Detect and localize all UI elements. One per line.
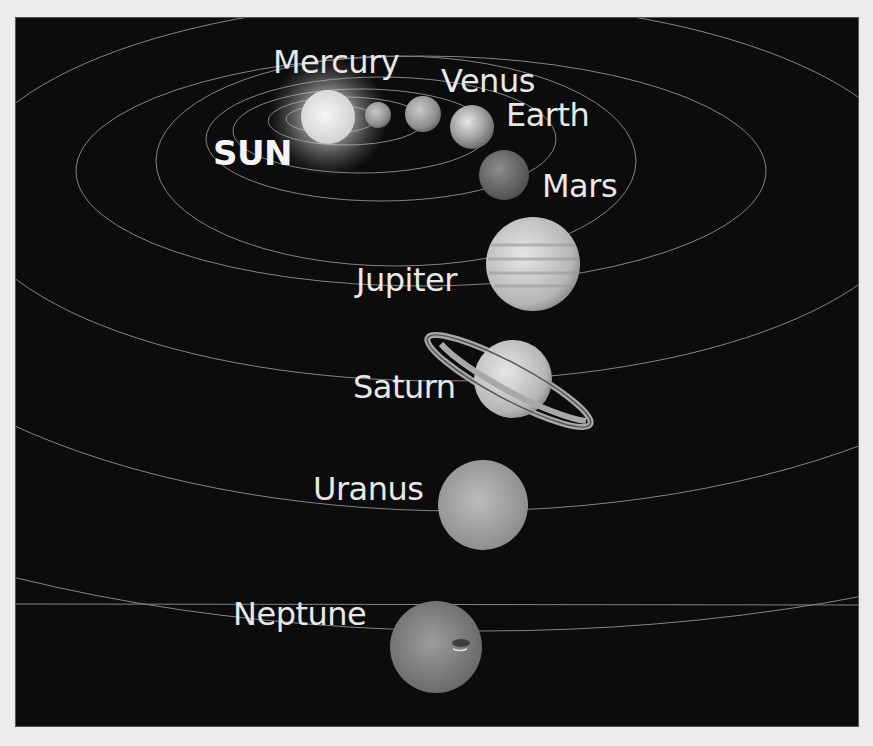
jupiter-icon — [486, 217, 580, 311]
neptune-icon — [390, 601, 482, 693]
earth-label: Earth — [506, 99, 589, 131]
saturn-label: Saturn — [353, 371, 456, 403]
venus-icon — [405, 96, 441, 132]
uranus-label: Uranus — [313, 473, 423, 505]
jupiter-label: Jupiter — [356, 264, 457, 296]
venus-label: Venus — [441, 65, 535, 97]
mercury-label: Mercury — [273, 46, 399, 78]
earth-icon — [450, 105, 494, 149]
mars-label: Mars — [542, 170, 617, 202]
sun-icon — [301, 90, 355, 144]
solar-system-diagram: SUN Mercury Venus Earth Mars Jupiter Sat… — [15, 17, 859, 727]
mercury-icon — [365, 102, 391, 128]
uranus-icon — [438, 460, 528, 550]
sun-label: SUN — [213, 136, 292, 170]
neptune-label: Neptune — [233, 598, 366, 630]
mars-icon — [479, 150, 529, 200]
